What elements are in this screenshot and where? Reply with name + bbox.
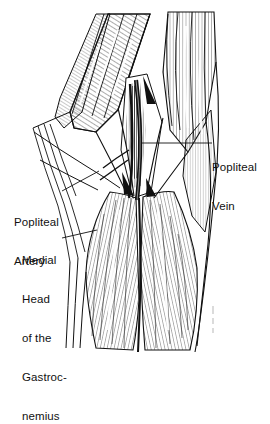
label-popliteal-vein-line1: Popliteal xyxy=(212,161,257,174)
label-medial-head-gastrocnemius: Medial Head of the Gastroc- nemius xyxy=(22,228,67,424)
label-medial-head-line3: of the xyxy=(22,332,67,345)
label-popliteal-vein-line2: Vein xyxy=(212,200,257,213)
label-medial-head-line1: Medial xyxy=(22,254,67,267)
label-medial-head-line4: Gastroc- xyxy=(22,371,67,384)
label-medial-head-line5: nemius xyxy=(22,410,67,423)
label-popliteal-vein: Popliteal Vein xyxy=(212,135,257,239)
label-medial-head-line2: Head xyxy=(22,293,67,306)
